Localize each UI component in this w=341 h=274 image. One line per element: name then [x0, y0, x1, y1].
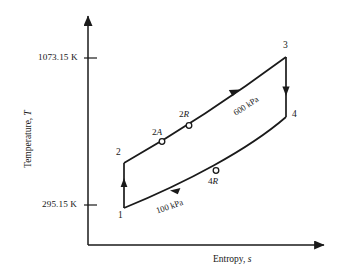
- y-tick-label-low: 295.15 K: [42, 200, 77, 209]
- process-4-1-arrow: [170, 188, 180, 194]
- y-axis-title-text: Temperature,: [23, 115, 33, 168]
- point-label-2r-sym: R: [184, 109, 190, 119]
- y-tick-label-high: 1073.15 K: [38, 53, 78, 62]
- process-4-1: [124, 117, 286, 208]
- y-axis-title: Temperature, T: [24, 110, 34, 168]
- x-axis-title: Entropy, s: [213, 255, 251, 265]
- marker-2r: [186, 123, 192, 129]
- marker-4r: [213, 168, 219, 174]
- point-label-4r-sym: R: [213, 176, 219, 186]
- x-axis-title-text: Entropy,: [213, 254, 248, 264]
- process-2-3: [124, 57, 286, 163]
- marker-2a: [159, 139, 165, 145]
- point-label-2a: 2A: [152, 128, 162, 137]
- point-label-2r: 2R: [179, 110, 189, 119]
- process-3-4-arrow: [282, 87, 289, 97]
- plot-canvas: [0, 0, 341, 274]
- point-label-2a-sym: A: [157, 127, 163, 137]
- state-label-2: 2: [116, 148, 121, 158]
- state-label-3: 3: [283, 41, 288, 51]
- process-1-2-arrow: [121, 178, 128, 187]
- ts-diagram-figure: 1073.15 K 295.15 K Temperature, T Entrop…: [0, 0, 341, 274]
- state-label-4: 4: [292, 110, 297, 120]
- y-axis-title-symbol: T: [23, 110, 33, 115]
- process-2-3-arrow: [229, 90, 240, 97]
- point-label-4r: 4R: [208, 177, 218, 186]
- state-label-1: 1: [118, 211, 123, 221]
- x-axis-title-symbol: s: [248, 254, 252, 264]
